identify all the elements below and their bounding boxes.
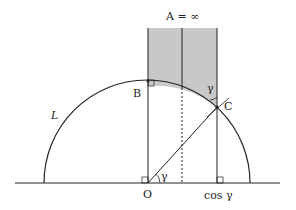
point-C	[215, 105, 218, 108]
semicircle-L	[44, 80, 250, 183]
angle-arc-O	[156, 174, 160, 183]
right-angle-cos	[217, 177, 223, 183]
label-gamma-top: γ	[207, 82, 214, 95]
label-A: A = ∞	[165, 10, 199, 23]
right-angle-O	[142, 177, 148, 183]
label-gamma-origin: γ	[161, 170, 168, 183]
hyperbolic-triangle-diagram: A = ∞ B C O L γ γ cos γ	[0, 0, 296, 210]
label-O: O	[143, 188, 152, 201]
label-cos-gamma: cos γ	[204, 189, 233, 202]
point-B	[146, 79, 149, 82]
label-L: L	[50, 109, 58, 122]
label-C: C	[224, 100, 232, 113]
label-B: B	[133, 87, 141, 100]
radius-OC	[148, 107, 217, 183]
